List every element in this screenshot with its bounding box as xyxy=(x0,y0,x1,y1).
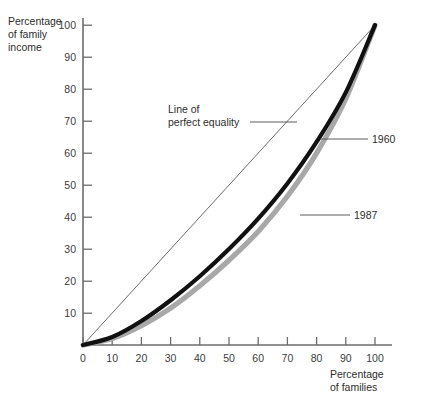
line-of-perfect-equality xyxy=(83,25,375,345)
annotation-equality-line1: Line of xyxy=(168,103,200,115)
x-tick-label-0: 0 xyxy=(80,352,86,364)
x-tick-label-50: 50 xyxy=(223,352,235,364)
y-axis-title-line2: of family xyxy=(8,28,48,40)
x-axis-title-line2: of families xyxy=(330,381,377,393)
x-tick-label-80: 80 xyxy=(311,352,323,364)
x-tick-label-10: 10 xyxy=(106,352,118,364)
x-tick-label-20: 20 xyxy=(136,352,148,364)
lorenz-curve-chart: 100 90 80 70 60 50 40 30 20 10 xyxy=(0,0,423,396)
y-tick-label-10: 10 xyxy=(64,307,76,319)
x-axis-title-line1: Percentage xyxy=(330,368,384,380)
x-axis-ticks xyxy=(83,337,375,345)
x-tick-label-100: 100 xyxy=(366,352,384,364)
x-tick-label-30: 30 xyxy=(165,352,177,364)
plot-area xyxy=(83,25,375,345)
annotation-1987-label: 1987 xyxy=(354,209,378,221)
x-tick-label-60: 60 xyxy=(252,352,264,364)
y-tick-label-50: 50 xyxy=(64,179,76,191)
y-axis-title-line3: income xyxy=(8,41,42,53)
chart-svg: 100 90 80 70 60 50 40 30 20 10 xyxy=(0,0,423,396)
x-axis-tick-labels: 0 10 20 30 40 50 60 70 80 90 100 xyxy=(80,352,384,364)
y-tick-label-30: 30 xyxy=(64,243,76,255)
y-tick-label-70: 70 xyxy=(64,115,76,127)
y-axis-ticks xyxy=(83,25,92,313)
y-tick-label-90: 90 xyxy=(64,51,76,63)
x-axis-title: Percentage of families xyxy=(330,368,384,393)
x-tick-label-70: 70 xyxy=(282,352,294,364)
x-tick-label-90: 90 xyxy=(340,352,352,364)
y-tick-label-20: 20 xyxy=(64,275,76,287)
x-tick-label-40: 40 xyxy=(194,352,206,364)
annotation-1960: 1960 xyxy=(320,133,396,145)
annotation-perfect-equality: Line of perfect equality xyxy=(168,103,297,128)
y-tick-label-40: 40 xyxy=(64,211,76,223)
annotation-equality-line2: perfect equality xyxy=(168,116,240,128)
y-tick-label-80: 80 xyxy=(64,83,76,95)
y-axis-title-line1: Percentage xyxy=(8,15,62,27)
annotation-1987: 1987 xyxy=(300,209,378,221)
y-axis-tick-labels: 100 90 80 70 60 50 40 30 20 10 xyxy=(58,19,76,319)
annotation-1960-label: 1960 xyxy=(372,133,396,145)
y-tick-label-60: 60 xyxy=(64,147,76,159)
y-axis-title: Percentage of family income xyxy=(8,15,62,53)
